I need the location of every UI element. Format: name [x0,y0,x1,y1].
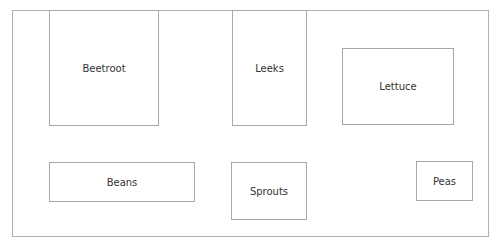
bed-lettuce[interactable]: Lettuce [342,48,454,125]
bed-leeks[interactable]: Leeks [232,10,307,126]
bed-label: Leeks [255,63,284,74]
bed-beetroot[interactable]: Beetroot [49,10,159,126]
bed-beans[interactable]: Beans [49,162,195,202]
bed-label: Beans [107,177,138,188]
bed-label: Beetroot [82,63,125,74]
bed-sprouts[interactable]: Sprouts [231,162,307,220]
bed-label: Sprouts [250,186,288,197]
bed-peas[interactable]: Peas [416,161,473,201]
bed-label: Lettuce [379,81,416,92]
bed-label: Peas [433,176,456,187]
